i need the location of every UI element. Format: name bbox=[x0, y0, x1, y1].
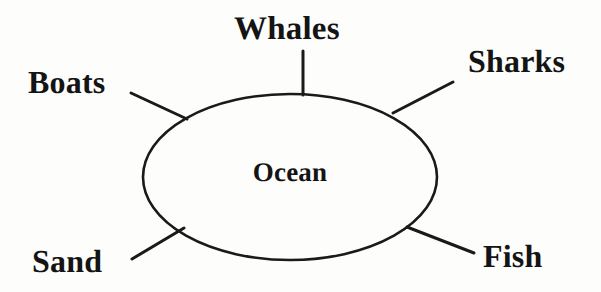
node-label-sand: Sand bbox=[32, 245, 102, 277]
node-label-whales: Whales bbox=[234, 13, 340, 46]
node-label-boats: Boats bbox=[28, 66, 105, 98]
connector-fish bbox=[407, 227, 474, 253]
center-node-label: Ocean bbox=[240, 159, 340, 186]
connector-sand bbox=[132, 228, 184, 259]
node-label-sharks: Sharks bbox=[468, 45, 565, 77]
connector-boats bbox=[131, 93, 187, 119]
connector-sharks bbox=[393, 82, 453, 113]
node-label-fish: Fish bbox=[483, 240, 543, 272]
word-web-diagram: Whales Sharks Boats Sand Fish Ocean bbox=[0, 0, 601, 292]
